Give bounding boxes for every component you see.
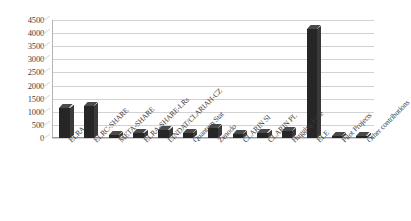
y-axis-tick-label: 3500 <box>0 42 44 51</box>
y-axis-tick-label: 4000 <box>0 29 44 38</box>
bar-slot <box>332 20 342 138</box>
y-axis-tick-labels: 050010001500200025003000350040004500 <box>0 20 46 138</box>
y-axis-tick-label: 3000 <box>0 55 44 64</box>
bar-slot <box>59 20 69 138</box>
y-axis-tick-label: 500 <box>0 121 44 130</box>
x-axis-tick-labels: ELRAELRC-SHAREMETA-SHAREELRA-SHARE-LRsLI… <box>52 138 374 221</box>
y-axis-tick-label: 1000 <box>0 108 44 117</box>
y-axis-tick-label: 1500 <box>0 94 44 103</box>
bar[interactable] <box>59 108 69 138</box>
bar[interactable] <box>84 106 94 138</box>
bar-slot <box>233 20 243 138</box>
y-axis-tick-label: 2000 <box>0 81 44 90</box>
y-axis-tick-label: 0 <box>0 134 44 143</box>
bar-slot <box>84 20 94 138</box>
y-axis-tick-label: 2500 <box>0 68 44 77</box>
y-axis-tick-label: 4500 <box>0 16 44 25</box>
